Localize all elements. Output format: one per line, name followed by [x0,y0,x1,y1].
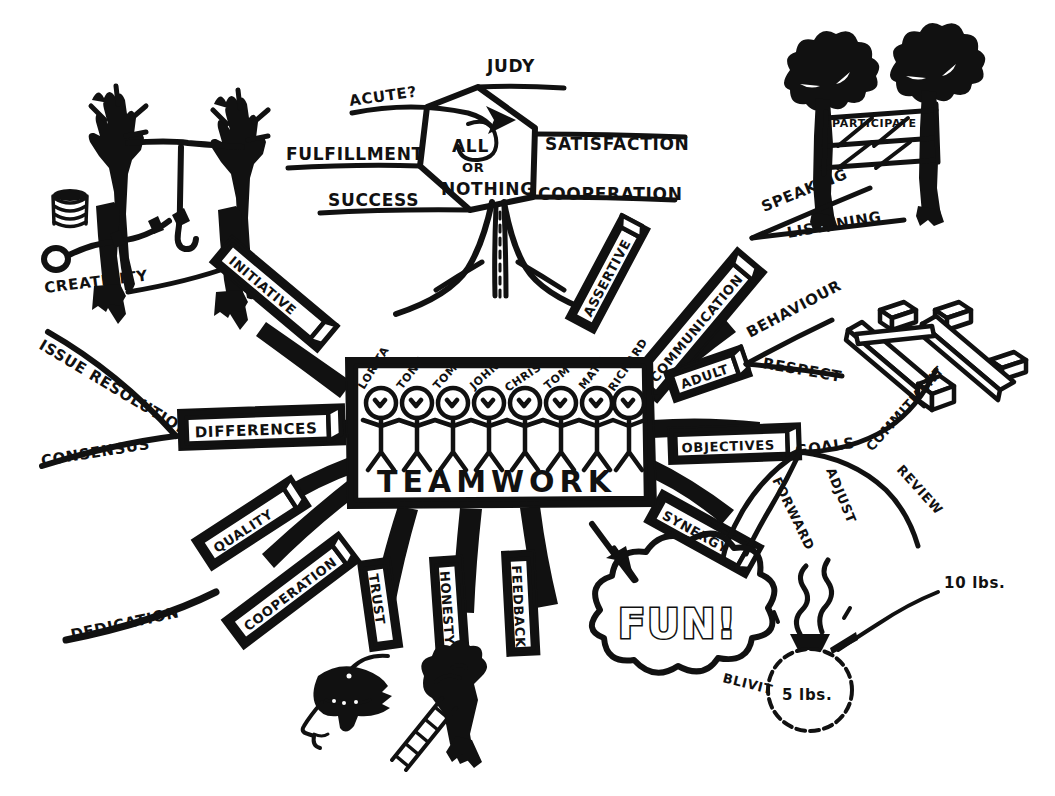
mindmap-svg: PARTICIPATE [0,0,1055,796]
label-cooperation-hex: COOPERATION [538,184,683,204]
teamwork-center-box[interactable]: LORITA TONY TOM JOHN CHRIS TOM MATT RICH… [346,336,656,508]
center-title: TEAMWORK [377,464,616,499]
box-differences[interactable]: DIFFERENCES [178,404,345,450]
label-forward: FORWARD [769,475,817,553]
label-satisfaction: SATISFACTION [545,134,690,154]
label-speaking: SPEAKING [759,165,850,216]
label-respect: RESPECT [761,354,843,386]
box-feedback[interactable]: FEEDBACK [502,550,539,656]
label-success: SUCCESS [328,190,419,210]
weight-bag-icon: 5 lbs. 10 lbs. [768,560,1006,731]
gate-trees-icon: PARTICIPATE [784,23,985,232]
bag-weight-label: 5 lbs. [782,686,832,704]
box-quality[interactable]: QUALITY [192,476,311,570]
label-listening: LISTENING [786,208,883,242]
label-dedication: DEDICATION [69,603,181,644]
hexagon-line2: OR [462,160,484,175]
label-judy: JUDY [486,56,535,76]
label-consensus: CONSENSUS [40,435,151,470]
spoke-judy [478,86,564,88]
fun-label: FUN! [618,601,738,647]
label-issue-resolution: ISSUE RESOLUTION [36,336,194,441]
label-adjust: ADJUST [823,466,859,526]
arrow-weight-label: 10 lbs. [944,574,1006,592]
rope-coil-icon [53,189,87,227]
box-objectives[interactable]: OBJECTIVES [668,423,801,464]
spoke-success [320,210,470,213]
rope-swing-trees-icon [89,86,268,330]
spoke-fulfillment [288,165,420,168]
person-with-ladder-icon [392,640,487,770]
hexagon-line3: NOTHING [441,179,535,199]
label-behaviour: BEHAVIOUR [743,276,844,341]
gate-sign-text: PARTICIPATE [832,117,917,130]
blindfolded-head-icon [303,656,392,748]
label-fulfillment: FULFILLMENT [286,144,424,164]
mindmap-canvas: PARTICIPATE [0,0,1055,796]
planks-blocks-icon [846,302,1026,410]
box-assertive[interactable]: ASSERTIVE [566,214,650,333]
hexagon-line1: ALL [452,136,489,156]
